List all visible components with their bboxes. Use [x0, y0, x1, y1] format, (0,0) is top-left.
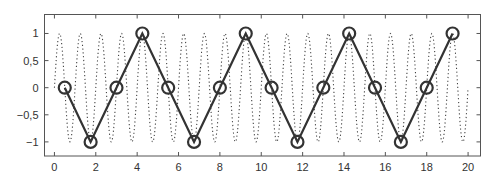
- x-tick-label: 0: [51, 161, 57, 173]
- x-tick-label: 10: [255, 161, 267, 173]
- x-tick-label: 6: [175, 161, 181, 173]
- y-tick-label: −0,5: [17, 109, 39, 121]
- y-tick-label: 0: [32, 82, 38, 94]
- sample-markers: [59, 27, 459, 147]
- x-tick-label: 14: [338, 161, 350, 173]
- x-tick-label: 4: [134, 161, 140, 173]
- sample-marker-circle: [59, 82, 71, 94]
- y-tick-label: 0,5: [23, 55, 38, 67]
- x-tick-label: 2: [93, 161, 99, 173]
- y-axis: 10,50−0,5−1: [17, 27, 481, 147]
- y-tick-label: −1: [26, 136, 39, 148]
- sample-marker-circle: [447, 27, 459, 39]
- x-tick-label: 20: [462, 161, 474, 173]
- x-tick-label: 12: [297, 161, 309, 173]
- x-tick-label: 16: [379, 161, 391, 173]
- x-tick-label: 18: [421, 161, 433, 173]
- y-tick-label: 1: [32, 27, 38, 39]
- aliasing-chart: 02468101214161820 10,50−0,5−1: [0, 0, 501, 180]
- x-tick-label: 8: [217, 161, 223, 173]
